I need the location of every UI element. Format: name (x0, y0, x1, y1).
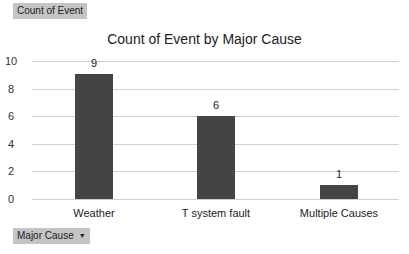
y-tick-label: 0 (0, 193, 22, 205)
dropdown-arrow-icon: ▼ (79, 232, 86, 239)
gridline (32, 199, 399, 200)
data-label: 6 (197, 99, 235, 111)
axis-field-label: Major Cause (17, 230, 74, 241)
y-tick-label: 4 (0, 138, 22, 150)
y-tick-label: 6 (0, 110, 22, 122)
value-field-button[interactable]: Count of Event (13, 3, 87, 19)
y-tick-label: 2 (0, 165, 22, 177)
value-field-label: Count of Event (17, 5, 83, 16)
x-category-label: Weather (34, 207, 154, 219)
axis-field-button[interactable]: Major Cause▼ (13, 228, 90, 244)
data-label: 1 (320, 168, 358, 180)
y-tick-label: 10 (0, 55, 22, 67)
bar-multiple-causes[interactable] (320, 185, 358, 199)
y-tick-label: 8 (0, 83, 22, 95)
x-category-label: T system fault (156, 207, 276, 219)
bar-weather[interactable] (75, 74, 113, 199)
x-category-label: Multiple Causes (279, 207, 399, 219)
chart-title: Count of Event by Major Cause (0, 31, 409, 47)
data-label: 9 (75, 57, 113, 69)
bar-t-system-fault[interactable] (197, 116, 235, 199)
